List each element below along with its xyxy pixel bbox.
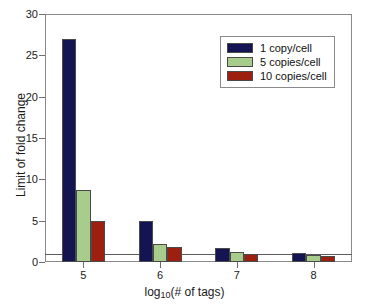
x-axis-title-subscript: 10 [160, 290, 170, 300]
y-axis-tick [39, 55, 45, 56]
y-axis-tick-label: 15 [0, 133, 38, 144]
legend-label: 10 copies/cell [260, 71, 327, 82]
bar [76, 190, 90, 262]
x-axis-title-base: log [144, 285, 160, 299]
y-axis-tick [39, 179, 45, 180]
bar [91, 221, 105, 262]
legend-swatch [227, 43, 253, 53]
y-axis-tick [39, 97, 45, 98]
bar [153, 244, 167, 262]
legend-item: 5 copies/cell [227, 55, 327, 69]
bar [306, 255, 320, 262]
bar [230, 252, 244, 262]
bar [167, 247, 181, 262]
legend-item: 1 copy/cell [227, 41, 327, 55]
y-axis-tick [39, 14, 45, 15]
bar [244, 254, 258, 262]
x-axis-tick-label: 8 [294, 269, 334, 281]
x-axis-tick-label: 7 [217, 269, 257, 281]
y-axis-tick-label: 10 [0, 174, 38, 185]
x-axis-title-rest: (# of tags) [171, 285, 225, 299]
bar [139, 221, 153, 262]
x-axis-tick-label: 5 [63, 269, 103, 281]
y-axis-tick-label: 20 [0, 92, 38, 103]
x-axis-tick [160, 262, 161, 268]
bar [62, 39, 76, 262]
y-axis-tick [39, 262, 45, 263]
y-axis-tick-label: 0 [0, 257, 38, 268]
bar-chart-figure: Limit of fold change 051015202530 5678 l… [0, 0, 369, 307]
legend-swatch [227, 57, 253, 67]
x-axis-tick [314, 262, 315, 268]
legend-swatch [227, 71, 253, 81]
x-axis-tick [83, 262, 84, 268]
legend-item: 10 copies/cell [227, 69, 327, 83]
bar [321, 256, 335, 262]
legend-label: 5 copies/cell [260, 57, 321, 68]
legend-label: 1 copy/cell [260, 43, 312, 54]
legend: 1 copy/cell5 copies/cell10 copies/cell [220, 36, 335, 88]
y-axis-tick [39, 221, 45, 222]
x-axis-tick [237, 262, 238, 268]
y-axis-tick-label: 25 [0, 50, 38, 61]
bar [292, 253, 306, 262]
bar [215, 248, 229, 262]
x-axis-tick-label: 6 [140, 269, 180, 281]
y-axis-tick-label: 5 [0, 216, 38, 227]
x-axis-title: log10(# of tags) [0, 285, 369, 299]
y-axis-tick-label: 30 [0, 9, 38, 20]
y-axis-tick [39, 138, 45, 139]
